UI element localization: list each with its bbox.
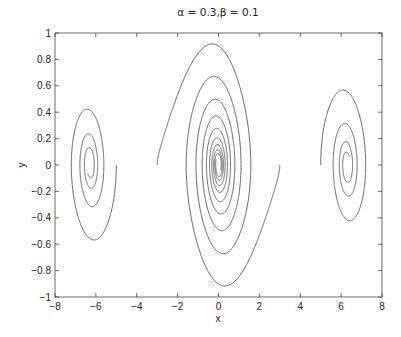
chart-title: α = 0.3,β = 0.1 [177, 6, 258, 18]
trajectory-line [321, 90, 366, 221]
x-tick-label: 6 [338, 301, 344, 312]
x-tick-label: −8 [49, 301, 61, 312]
y-tick-label: −0.4 [31, 212, 51, 223]
y-tick-label: −0.2 [31, 186, 51, 197]
y-tick-label: −0.8 [31, 265, 51, 276]
y-tick-label: −0.6 [31, 239, 51, 250]
y-tick-label: 1 [45, 28, 51, 39]
trajectories [71, 44, 365, 286]
y-tick-label: 0.8 [37, 54, 51, 65]
x-tick-label: −4 [131, 301, 143, 312]
y-tick-label: 0.6 [37, 80, 51, 91]
trajectory-line [71, 109, 116, 240]
x-tick-label: 4 [297, 301, 303, 312]
x-tick-label: 2 [257, 301, 263, 312]
y-tick-label: −1 [40, 292, 52, 303]
x-tick-label: −6 [90, 301, 102, 312]
trajectory-line [186, 76, 280, 286]
x-tick-label: 8 [379, 301, 385, 312]
y-tick-label: 0 [45, 160, 51, 171]
y-tick-label: 0.4 [37, 107, 51, 118]
phase-portrait-chart: α = 0.3,β = 0.1 −8−6−4−20246810.80.60.40… [0, 0, 401, 337]
x-axis-label: x [216, 313, 221, 324]
y-tick-label: 0.2 [37, 133, 51, 144]
x-tick-label: 0 [216, 301, 222, 312]
y-axis-label: y [16, 163, 27, 168]
x-tick-label: −2 [172, 301, 184, 312]
trajectory-line [157, 44, 251, 254]
